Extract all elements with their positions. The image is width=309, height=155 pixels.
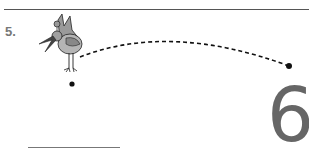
illustration <box>0 0 309 155</box>
start-dot <box>69 81 74 86</box>
dashed-path <box>80 41 289 66</box>
target-digit: 6 <box>267 78 309 152</box>
end-dot <box>286 63 292 69</box>
answer-line[interactable] <box>28 147 120 148</box>
bird-icon <box>39 14 82 72</box>
